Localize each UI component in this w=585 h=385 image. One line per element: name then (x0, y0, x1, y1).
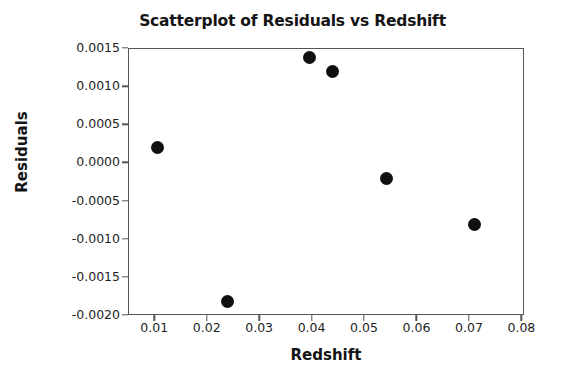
x-axis-tick-label: 0.08 (507, 322, 535, 335)
x-axis-tick-label: 0.04 (298, 322, 326, 335)
x-axis-tick-label: 0.07 (455, 322, 483, 335)
data-point (303, 51, 316, 64)
plot-area (128, 48, 524, 315)
y-axis-title: Residuals (13, 92, 31, 212)
data-point (326, 65, 339, 78)
x-axis-tick-label: 0.05 (350, 322, 378, 335)
data-point (151, 141, 164, 154)
y-axis-tick-label: -0.0005 (72, 194, 120, 207)
data-point (221, 295, 234, 308)
x-axis-tick-label: 0.02 (193, 322, 221, 335)
y-axis-tick-label: 0.0000 (76, 156, 120, 169)
y-axis-tick-label: -0.0010 (72, 232, 120, 245)
x-axis-tick-label: 0.01 (140, 322, 168, 335)
data-point (468, 218, 481, 231)
data-point (380, 172, 393, 185)
y-axis-tick-label: 0.0015 (76, 42, 120, 55)
scatterplot-chart: Scatterplot of Residuals vs Redshift Res… (0, 0, 585, 385)
y-axis-tick-label: -0.0015 (72, 271, 120, 284)
y-axis-tick-label-group: 0.00150.00100.00050.0000-0.0005-0.0010-0… (52, 0, 120, 385)
x-axis-title: Redshift (128, 346, 524, 364)
x-axis-tick-label: 0.03 (245, 322, 273, 335)
y-axis-tick-label: -0.0020 (72, 309, 120, 322)
x-axis-tick-label: 0.06 (403, 322, 431, 335)
y-axis-tick-label: 0.0005 (76, 118, 120, 131)
y-axis-tick-label: 0.0010 (76, 80, 120, 93)
